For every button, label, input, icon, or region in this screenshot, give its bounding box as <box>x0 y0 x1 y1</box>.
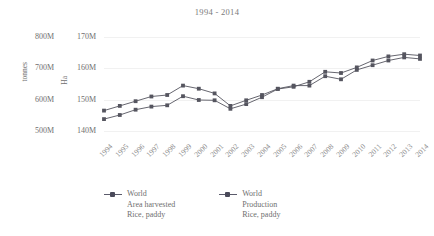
data-point <box>229 107 233 111</box>
data-point <box>260 95 264 99</box>
data-point <box>197 87 201 91</box>
y-axis-left-tick: 800M <box>18 32 54 41</box>
data-point <box>102 109 106 113</box>
data-point <box>418 54 422 58</box>
data-point <box>276 87 280 91</box>
data-point <box>118 113 122 117</box>
data-point <box>292 84 296 88</box>
legend-marker-icon <box>219 190 237 199</box>
data-point <box>213 92 217 96</box>
data-point <box>323 70 327 74</box>
data-point <box>292 85 296 89</box>
chart-container: 1994 - 2014 tonnes Ha 500M600M700M800M 1… <box>0 0 434 236</box>
data-point <box>387 55 391 59</box>
y-axis-right-tick: 160M <box>64 63 96 72</box>
data-point <box>102 117 106 121</box>
series-2 <box>102 52 422 121</box>
data-point <box>402 56 406 60</box>
data-point <box>181 84 185 88</box>
legend-entry-1[interactable]: WorldArea harvestedRice, paddy <box>104 189 175 221</box>
legend-marker-icon <box>104 190 122 199</box>
legend-label-line-1: World <box>242 189 280 200</box>
gridline <box>104 100 420 101</box>
data-point <box>371 63 375 67</box>
data-point <box>339 71 343 75</box>
legend-label-line-3: Rice, paddy <box>242 210 280 221</box>
series-line <box>104 57 420 110</box>
data-point <box>402 52 406 56</box>
legend-label: WorldProductionRice, paddy <box>242 189 280 221</box>
y-axis-right-tick: 170M <box>64 32 96 41</box>
data-point <box>276 87 280 91</box>
gridline <box>104 131 420 132</box>
data-point <box>181 94 185 98</box>
legend-label-line-2: Area harvested <box>127 200 175 211</box>
series-line <box>104 54 420 119</box>
data-point <box>308 80 312 84</box>
y-axis-right-tick: 150M <box>64 95 96 104</box>
y-axis-left-tick: 600M <box>18 95 54 104</box>
legend-label-line-3: Rice, paddy <box>127 210 175 221</box>
chart-legend: WorldArea harvestedRice, paddyWorldProdu… <box>104 189 404 221</box>
data-point <box>150 105 154 109</box>
y-axis-left-tick: 500M <box>18 126 54 135</box>
data-point <box>418 57 422 61</box>
data-point <box>165 103 169 107</box>
series-1 <box>102 56 422 113</box>
gridline <box>104 37 420 38</box>
y-axis-left-tick: 700M <box>18 63 54 72</box>
data-point <box>134 108 138 112</box>
data-point <box>150 95 154 99</box>
y-axis-right-tick: 140M <box>64 126 96 135</box>
gridline <box>104 68 420 69</box>
data-point <box>244 102 248 106</box>
data-point <box>387 59 391 63</box>
legend-label: WorldArea harvestedRice, paddy <box>127 189 175 221</box>
legend-label-line-2: Production <box>242 200 280 211</box>
data-point <box>371 59 375 63</box>
legend-label-line-1: World <box>127 189 175 200</box>
chart-title: 1994 - 2014 <box>0 7 434 17</box>
data-point <box>165 93 169 97</box>
data-point <box>260 93 264 97</box>
data-point <box>118 104 122 108</box>
data-point <box>229 104 233 108</box>
y-axis-right-label: Ha <box>60 76 69 85</box>
data-point <box>308 84 312 88</box>
data-point <box>339 77 343 81</box>
legend-entry-2[interactable]: WorldProductionRice, paddy <box>219 189 280 221</box>
data-point <box>323 74 327 78</box>
